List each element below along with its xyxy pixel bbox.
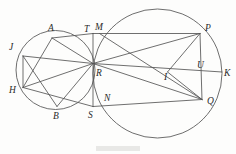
point-label-S: S <box>88 110 93 120</box>
small-circle <box>16 31 95 110</box>
segment-I-Q <box>168 72 203 100</box>
point-label-J: J <box>9 42 14 52</box>
segment-P-I <box>168 34 201 73</box>
segment-H-S <box>23 88 93 107</box>
point-label-N: N <box>103 93 111 103</box>
point-label-H: H <box>8 85 17 95</box>
point-label-U: U <box>197 60 205 70</box>
large-circle <box>93 9 222 138</box>
point-label-M: M <box>94 22 104 32</box>
geometry-figure: ABHJTMRSNPQKUI <box>0 0 236 154</box>
geometry-canvas: ABHJTMRSNPQKUI <box>0 0 236 154</box>
segment-R-P <box>93 34 200 64</box>
segment-M-Q <box>100 34 203 100</box>
point-label-K: K <box>223 68 231 78</box>
point-label-R: R <box>95 68 102 78</box>
point-label-Q: Q <box>207 96 214 106</box>
point-label-A: A <box>47 23 54 33</box>
point-label-B: B <box>53 111 59 121</box>
point-label-P: P <box>204 23 211 33</box>
caption-placeholder-bar <box>96 146 140 151</box>
point-label-T: T <box>84 24 90 34</box>
